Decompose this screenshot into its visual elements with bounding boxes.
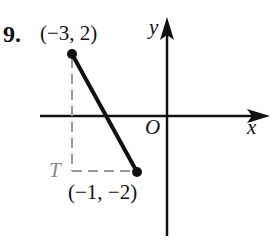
origin-label: O	[145, 117, 160, 138]
point-b	[132, 167, 142, 177]
problem-number: 9.	[3, 22, 21, 46]
diagram: 9. (−3, 2) (−1, −2) T O x y	[0, 0, 279, 241]
point-a	[67, 49, 77, 59]
point-b-label: (−1, −2)	[68, 182, 137, 203]
corner-label: T	[49, 160, 61, 181]
y-axis-label: y	[149, 17, 158, 38]
point-a-label: (−3, 2)	[40, 23, 97, 44]
x-axis-label: x	[247, 117, 256, 138]
line-segment	[72, 54, 137, 172]
